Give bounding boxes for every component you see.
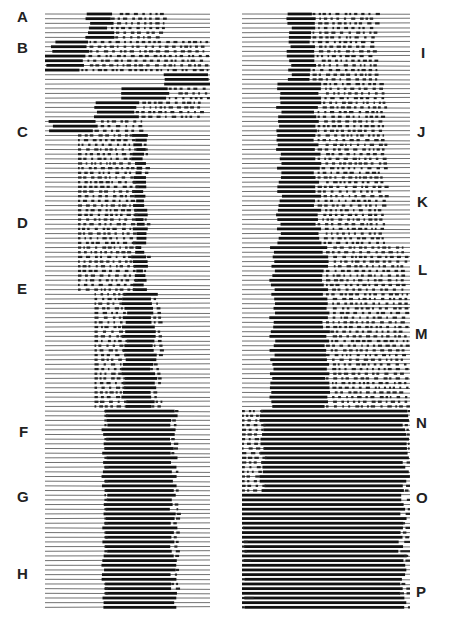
trace-line xyxy=(242,61,410,62)
echo-segment xyxy=(260,480,407,483)
echo-segment xyxy=(274,344,325,347)
echo-segment xyxy=(270,382,329,385)
panel-label-o: O xyxy=(416,490,428,505)
echo-segment xyxy=(102,527,177,530)
echo-segment xyxy=(137,223,145,226)
echo-segment xyxy=(136,199,144,202)
echo-segment xyxy=(242,569,406,572)
echo-segment xyxy=(86,17,111,20)
echo-segment xyxy=(279,204,314,207)
echo-segment xyxy=(137,237,147,240)
echo-segment xyxy=(281,232,319,235)
echo-segment xyxy=(276,213,318,216)
echo-segment xyxy=(242,512,400,515)
echo-segment xyxy=(272,405,324,408)
echo-segment xyxy=(272,377,325,380)
echo-segment xyxy=(242,601,406,604)
echo-segment xyxy=(125,330,156,333)
echo-segment xyxy=(271,265,328,268)
echo-segment xyxy=(126,405,151,408)
echo-segment xyxy=(282,162,322,165)
echo-segment xyxy=(270,358,327,361)
echo-segment xyxy=(265,456,409,459)
echo-segment xyxy=(126,358,157,361)
echo-segment xyxy=(123,349,154,352)
echo-segment xyxy=(242,494,401,497)
echo-segment xyxy=(242,508,405,511)
echo-segment xyxy=(122,326,155,329)
echo-segment xyxy=(260,414,408,417)
echo-segment xyxy=(122,298,151,301)
echo-segment xyxy=(123,316,151,319)
panel-label-j: J xyxy=(417,124,425,139)
echo-segment xyxy=(272,363,329,366)
echo-segment xyxy=(126,321,152,324)
echo-segment xyxy=(245,606,405,609)
echo-segment xyxy=(281,111,313,114)
echo-segment xyxy=(274,307,327,310)
echo-segment xyxy=(105,587,171,590)
echo-segment xyxy=(270,372,329,375)
echo-segment xyxy=(245,578,402,581)
panel-label-p: P xyxy=(416,584,426,599)
trace-line xyxy=(45,187,210,188)
echo-segment xyxy=(269,316,328,319)
echo-segment xyxy=(275,302,328,305)
echo-segment xyxy=(277,185,315,188)
echo-segment xyxy=(242,498,401,501)
echo-segment xyxy=(275,312,329,315)
echo-segment xyxy=(277,87,321,90)
echo-segment xyxy=(279,237,320,240)
echo-segment xyxy=(277,228,321,231)
echo-segment xyxy=(87,13,112,16)
echo-segment xyxy=(244,550,398,553)
echo-segment xyxy=(273,256,328,259)
echo-segment xyxy=(105,592,177,595)
echo-segment xyxy=(102,452,170,455)
echo-segment xyxy=(289,31,311,34)
echo-segment xyxy=(132,134,148,137)
echo-segment xyxy=(103,597,177,600)
echo-segment xyxy=(275,270,324,273)
echo-segment xyxy=(279,125,315,128)
panel-label-n: N xyxy=(416,415,427,430)
panel-label-k: K xyxy=(417,194,428,209)
echo-segment xyxy=(137,167,143,170)
echo-segment xyxy=(125,377,157,380)
echo-segment xyxy=(52,50,89,53)
echo-segment xyxy=(105,522,171,525)
echo-segment xyxy=(292,27,315,30)
echo-segment xyxy=(102,484,177,487)
echo-segment xyxy=(45,59,83,62)
echo-segment xyxy=(88,31,114,34)
echo-segment xyxy=(105,489,174,492)
echo-segment xyxy=(280,101,321,104)
echo-segment xyxy=(244,545,403,548)
echo-segment xyxy=(106,438,170,441)
echo-segment xyxy=(287,55,315,58)
echo-segment xyxy=(270,246,327,249)
echo-segment xyxy=(244,541,399,544)
echo-segment xyxy=(263,470,409,473)
echo-segment xyxy=(263,424,402,427)
echo-segment xyxy=(259,475,409,478)
echo-segment xyxy=(133,260,148,263)
echo-segment xyxy=(89,27,107,30)
panel-label-g: G xyxy=(17,489,29,504)
echo-segment xyxy=(287,22,314,25)
echo-segment xyxy=(262,489,404,492)
echo-segment xyxy=(278,115,316,118)
echo-segment xyxy=(281,223,316,226)
echo-segment xyxy=(123,382,155,385)
echo-segment xyxy=(46,64,84,67)
echo-segment xyxy=(274,321,323,324)
echo-segment xyxy=(164,83,210,86)
echo-segment xyxy=(274,260,328,263)
echo-segment xyxy=(122,302,152,305)
echo-segment xyxy=(275,354,326,357)
echo-segment xyxy=(281,153,321,156)
echo-segment xyxy=(263,428,405,431)
echo-segment xyxy=(275,288,328,291)
echo-segment xyxy=(127,340,155,343)
echo-segment xyxy=(122,335,156,338)
